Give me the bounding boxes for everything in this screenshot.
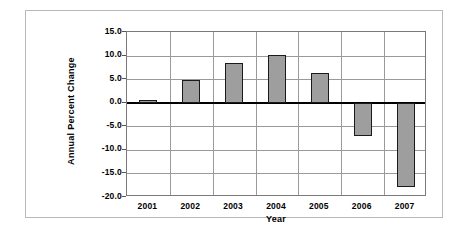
y-tick-label: -20.0 (102, 192, 122, 201)
figure-outer-frame: Annual Percent Change 15.010.05.00.0-5.0… (25, 10, 443, 218)
x-axis-tick-labels: 2001200220032004200520062007 (126, 201, 426, 215)
x-tick-label-2002: 2002 (169, 201, 212, 211)
x-tick-label-2007: 2007 (383, 201, 426, 211)
bar-2002 (182, 80, 200, 103)
y-tick-mark (122, 55, 126, 56)
y-tick-mark (122, 125, 126, 126)
gridline-vertical (341, 32, 342, 195)
y-tick-mark (122, 102, 126, 103)
x-axis-title: Year (126, 214, 426, 224)
bar-2003 (225, 63, 243, 103)
bar-2006 (354, 103, 372, 136)
x-tick-label-2003: 2003 (212, 201, 255, 211)
y-tick-mark (122, 149, 126, 150)
bar-2005 (311, 73, 329, 103)
gridline-horizontal (127, 150, 425, 151)
gridline-vertical (256, 32, 257, 195)
gridline-vertical (213, 32, 214, 195)
bar-2007 (397, 103, 415, 187)
bar-2004 (268, 55, 286, 103)
x-tick-label-2006: 2006 (340, 201, 383, 211)
plot-area (126, 31, 426, 196)
y-tick-mark (122, 196, 126, 197)
y-axis-tick-labels: 15.010.05.00.0-5.0-10.0-15.0-20.0 (82, 31, 122, 196)
x-tick-label-2005: 2005 (297, 201, 340, 211)
x-tick-label-2001: 2001 (126, 201, 169, 211)
y-tick-label: -10.0 (102, 144, 122, 153)
chart-figure: Annual Percent Change 15.010.05.00.0-5.0… (0, 0, 463, 231)
y-tick-label: 10.0 (105, 50, 122, 59)
y-tick-label: 5.0 (110, 74, 122, 83)
y-tick-mark (122, 31, 126, 32)
y-tick-label: 0.0 (110, 97, 122, 106)
y-tick-mark (122, 172, 126, 173)
x-tick-label-2004: 2004 (255, 201, 298, 211)
gridline-horizontal (127, 173, 425, 174)
y-tick-label: -15.0 (102, 168, 122, 177)
gridline-vertical (170, 32, 171, 195)
y-tick-label: -5.0 (107, 121, 122, 130)
y-tick-mark (122, 78, 126, 79)
y-axis-title: Annual Percent Change (66, 26, 76, 196)
gridline-vertical (384, 32, 385, 195)
bar-2001 (139, 100, 157, 103)
gridline-vertical (298, 32, 299, 195)
gridline-horizontal (127, 126, 425, 127)
y-tick-label: 15.0 (105, 27, 122, 36)
